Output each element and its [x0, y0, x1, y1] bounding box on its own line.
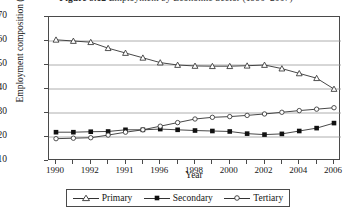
y-tick-mark: [44, 16, 48, 17]
figure-title-number: Figure 8.12: [59, 0, 106, 3]
y-tick-label: 70: [0, 10, 7, 20]
x-tick-mark: [298, 160, 299, 164]
series-line: [56, 108, 334, 139]
x-tick-mark: [107, 160, 108, 164]
legend-label-tertiary: Tertiary: [253, 193, 283, 203]
data-point: [280, 110, 284, 114]
open-circle-glyph: [233, 194, 242, 202]
open-triangle-glyph: [81, 194, 90, 202]
data-point: [175, 128, 180, 133]
data-point: [228, 114, 232, 118]
x-tick-mark: [333, 160, 334, 164]
data-point: [297, 108, 301, 112]
x-tick-mark: [159, 160, 160, 164]
x-tick-mark: [246, 160, 247, 164]
y-tick-mark: [44, 40, 48, 41]
y-tick-mark: [44, 64, 48, 65]
data-point: [245, 113, 249, 117]
y-tick-label: 10: [0, 154, 7, 164]
x-tick-mark: [264, 160, 265, 164]
x-tick-mark: [177, 160, 178, 164]
x-tick-mark: [125, 160, 126, 164]
series-primary: [53, 37, 337, 91]
data-point: [54, 130, 59, 135]
legend-label-secondary: Secondary: [173, 193, 213, 203]
y-tick-label: 20: [0, 130, 7, 140]
data-point: [280, 132, 285, 137]
data-point: [332, 121, 337, 126]
y-tick-label: 40: [0, 82, 7, 92]
data-point: [193, 128, 198, 133]
legend-item-primary[interactable]: Primary: [73, 193, 133, 203]
legend-label-primary: Primary: [102, 193, 133, 203]
data-point: [158, 124, 162, 128]
data-point: [71, 136, 75, 140]
open-circle-icon: [224, 194, 250, 203]
data-point: [193, 117, 197, 121]
chart-legend: Primary Secondary Tertiary: [66, 189, 290, 207]
open-triangle-icon: [73, 194, 99, 203]
data-point: [123, 130, 127, 134]
data-point: [141, 128, 145, 132]
y-axis-label: Employment composition (%): [15, 0, 25, 120]
y-tick-label: 50: [0, 58, 7, 68]
x-tick-mark: [55, 160, 56, 164]
legend-item-tertiary[interactable]: Tertiary: [224, 193, 283, 203]
y-tick-mark: [44, 88, 48, 89]
series-layer: [49, 17, 341, 161]
filled-square-icon: [144, 194, 170, 203]
x-tick-mark: [72, 160, 73, 164]
data-point: [88, 129, 93, 134]
series-secondary: [54, 121, 337, 137]
gridlines: [49, 41, 341, 137]
y-tick-label: 60: [0, 34, 7, 44]
data-point: [227, 129, 232, 134]
data-point: [262, 132, 267, 137]
x-tick-mark: [229, 160, 230, 164]
y-tick-mark: [44, 136, 48, 137]
figure-title: Figure 8.12 Employment by Economic Secto…: [0, 0, 352, 5]
data-point: [210, 115, 214, 119]
data-point: [106, 133, 110, 137]
data-point: [314, 107, 318, 111]
data-point: [332, 106, 336, 110]
data-point: [210, 129, 215, 134]
data-point: [71, 130, 76, 135]
x-tick-mark: [211, 160, 212, 164]
figure-container: Figure 8.12 Employment by Economic Secto…: [0, 0, 352, 215]
x-tick-mark: [281, 160, 282, 164]
data-point: [245, 131, 250, 136]
legend-item-secondary[interactable]: Secondary: [144, 193, 213, 203]
x-axis-label: Year: [48, 170, 340, 180]
data-point: [297, 129, 302, 134]
x-tick-mark: [142, 160, 143, 164]
x-tick-mark: [90, 160, 91, 164]
series-tertiary: [54, 106, 336, 141]
data-point: [262, 112, 266, 116]
data-point: [54, 136, 58, 140]
data-point: [175, 120, 179, 124]
plot-area: [48, 16, 340, 160]
filled-square-glyph: [152, 194, 161, 202]
x-tick-mark: [316, 160, 317, 164]
y-tick-mark: [44, 112, 48, 113]
data-point: [314, 126, 319, 131]
y-tick-mark: [44, 160, 48, 161]
x-tick-mark: [194, 160, 195, 164]
data-point: [89, 136, 93, 140]
figure-title-text: Employment by Economic Sector (1990–2007…: [109, 0, 293, 3]
y-tick-label: 30: [0, 106, 7, 116]
